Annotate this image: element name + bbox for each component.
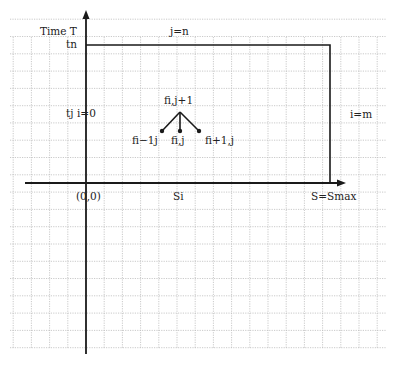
stencil-edge-right [180,112,199,131]
tj-label: tj [66,107,73,119]
si-label: Si [173,190,184,202]
j-eq-n-label: j=n [168,25,189,37]
stencil-node-center [178,129,182,133]
stencil-node-right [197,129,201,133]
origin-label: (0,0) [76,190,101,202]
i-eq-m-label: i=m [350,108,372,120]
stencil-node-left [160,129,164,133]
i-eq-0-label: i=0 [77,107,96,119]
stencil-right-label: fi+1,j [205,134,234,146]
time-axis-arrow-icon [83,10,90,19]
finite-difference-diagram: Time T tn j=n tj i=0 i=m fi,j+1 fi−1j fi… [0,0,394,367]
s-axis-arrow-icon [337,180,346,187]
stencil-top-label: fi,j+1 [164,94,193,106]
smax-label: S=Smax [311,190,356,202]
stencil-left-label: fi−1j [132,134,158,146]
tn-label: tn [66,38,77,50]
time-axis-label: Time T [40,25,77,37]
stencil-center-label: fi,j [171,134,185,146]
